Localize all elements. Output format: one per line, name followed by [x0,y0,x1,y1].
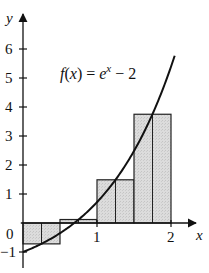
y-axis-label: y [4,10,13,26]
y-tick-label: −1 [0,244,16,260]
x-tick-label: 1 [93,229,101,245]
x-axis-label: x [195,227,203,243]
y-tick-label: 5 [5,70,13,86]
plot-area: −1123456012xyf(x) = ex − 2 [0,0,209,273]
y-tick-label: 3 [5,128,13,144]
x-tick-label: 2 [167,229,175,245]
y-tick-label: 1 [5,186,13,202]
x-tick-label: 0 [6,226,14,242]
function-label: f(x) = ex − 2 [60,62,136,83]
y-tick-label: 2 [5,157,13,173]
y-tick-label: 6 [5,41,13,57]
y-tick-label: 4 [5,99,13,115]
riemann-sum-chart: −1123456012xyf(x) = ex − 2 f(x) = e^x − … [0,0,209,273]
